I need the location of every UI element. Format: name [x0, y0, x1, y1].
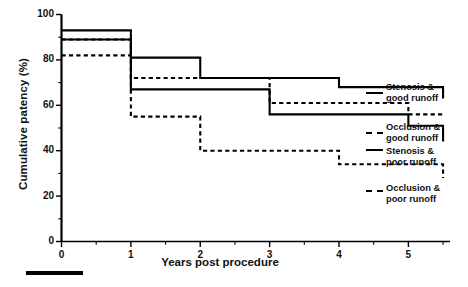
legend-label-line2: poor runoff [386, 157, 436, 168]
legend-label-line1: Stenosis & [386, 82, 438, 93]
legend-label-line1: Occlusion & [386, 183, 440, 194]
legend-label-1: Occlusion &good runoff [386, 122, 440, 143]
x-tick-label: 0 [52, 249, 72, 260]
y-tick-label: 60 [20, 99, 54, 110]
legend-label-line2: poor runoff [386, 194, 440, 205]
legend-label-0: Stenosis &good runoff [386, 82, 438, 103]
legend-label-line2: good runoff [386, 93, 438, 104]
legend-label-3: Occlusion &poor runoff [386, 183, 440, 204]
legend-label-2: Stenosis &poor runoff [386, 146, 436, 167]
legend-key-3 [366, 190, 383, 192]
legend-key-2 [366, 149, 383, 151]
scale-bar [26, 271, 83, 275]
x-tick-label: 1 [121, 249, 141, 260]
plot-canvas [0, 0, 468, 287]
y-tick-label: 20 [20, 190, 54, 201]
x-tick-label: 3 [260, 249, 280, 260]
y-tick-label: 100 [20, 8, 54, 19]
legend-label-line1: Stenosis & [386, 146, 436, 157]
legend-label-line2: good runoff [386, 133, 440, 144]
x-tick-label: 4 [329, 249, 349, 260]
legend-key-1 [366, 132, 383, 134]
x-tick-label: 2 [190, 249, 210, 260]
y-tick-label: 40 [20, 144, 54, 155]
legend-label-line1: Occlusion & [386, 122, 440, 133]
x-tick-label: 5 [398, 249, 418, 260]
survival-curve-figure: Cumulative patency (%) Years post proced… [0, 0, 468, 287]
y-tick-label: 0 [20, 235, 54, 246]
y-tick-label: 80 [20, 53, 54, 64]
legend-key-0 [366, 92, 383, 94]
